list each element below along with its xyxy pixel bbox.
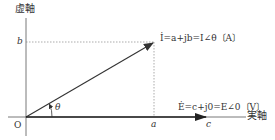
- voltage-phasor-equation: Ė=c+j0=E∠0〔V〕: [178, 103, 265, 112]
- current-phasor-equation: İ=a+jb=I∠θ〔A〕: [160, 34, 241, 43]
- angle-arc: [50, 105, 53, 118]
- angle-theta-label: θ: [55, 103, 60, 112]
- real-axis-label: 実軸: [247, 111, 267, 121]
- b-tick-label: b: [17, 37, 23, 46]
- origin-label: O: [14, 121, 21, 130]
- a-tick-label: a: [151, 120, 156, 129]
- c-tick-label: c: [206, 120, 211, 129]
- current-phasor-arrow: [26, 43, 153, 117]
- phasor-diagram-canvas: [0, 0, 275, 140]
- imaginary-axis-label: 虚軸: [15, 4, 35, 14]
